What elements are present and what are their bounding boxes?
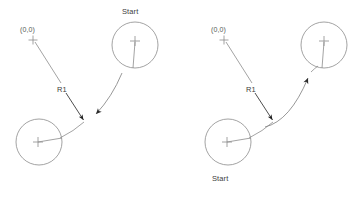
- radius-label: R1: [57, 85, 67, 94]
- origin-label: (0,0): [211, 25, 226, 34]
- radius-leader-line: [66, 93, 84, 120]
- end-circle-spoke: [38, 138, 62, 142]
- origin-leader-line: [35, 42, 61, 83]
- motion-arc-arrow: [265, 78, 308, 127]
- radius-leader-line: [255, 93, 273, 120]
- technical-diagram-svg: [0, 0, 354, 197]
- radius-label: R1: [246, 85, 256, 94]
- end-circle-tangent: [60, 122, 84, 138]
- start-label: Start: [122, 7, 138, 16]
- right-panel-group: [205, 22, 347, 165]
- origin-leader-line: [226, 42, 252, 83]
- start-circle: [112, 22, 158, 68]
- end-circle-spoke: [322, 42, 324, 68]
- end-circle-approach-stroke: [311, 66, 318, 72]
- start-circle-spoke: [227, 138, 251, 142]
- motion-arc-arrow: [96, 73, 122, 114]
- end-circle: [301, 22, 347, 68]
- start-circle: [205, 119, 251, 165]
- left-panel-group: [16, 22, 158, 165]
- end-circle: [16, 119, 62, 165]
- origin-label: (0,0): [20, 25, 35, 34]
- diagram-canvas-container: (0,0) Start R1 (0,0) Start R1: [0, 0, 354, 197]
- start-label: Start: [212, 174, 228, 183]
- start-circle-tangent: [249, 122, 273, 138]
- start-circle-spoke: [133, 42, 135, 68]
